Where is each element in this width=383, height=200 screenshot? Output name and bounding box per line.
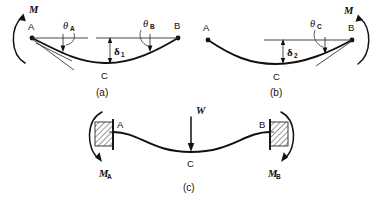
delta-2-subscript: 2 (294, 52, 298, 59)
label-a-point-a: A (28, 21, 35, 32)
caption-c: (c) (183, 182, 195, 193)
beam-curve-a (32, 38, 178, 63)
label-b-point-a: A (203, 22, 210, 33)
moment-m-a-label: M (28, 4, 39, 15)
theta-c-subscript: C (317, 23, 322, 30)
panel-c: W M A M B A B C (c) (89, 105, 293, 193)
load-w-arrowhead (188, 143, 194, 152)
theta-a-leader (66, 33, 75, 45)
moment-ma-subscript: A (107, 173, 112, 180)
moment-ma-arrowhead (95, 152, 102, 162)
label-c-point-b: B (259, 119, 265, 130)
delta-1-symbol: δ (114, 45, 120, 57)
label-a-point-c: C (101, 70, 108, 81)
theta-c-symbol: θ (310, 18, 315, 29)
label-c-point-c: C (187, 158, 194, 169)
moment-mb-subscript: B (276, 173, 281, 180)
theta-b-arrowhead (148, 46, 153, 53)
moment-m-b-label: M (343, 5, 354, 16)
theta-b-symbol: θ (143, 18, 148, 29)
panel-a: θ A θ B δ 1 M A B C (a) (13, 4, 180, 98)
theta-b-subscript: B (150, 23, 155, 30)
tangent-line-b (316, 41, 352, 66)
moment-m-b-arc (358, 18, 369, 64)
caption-b: (b) (270, 87, 282, 98)
caption-a: (a) (96, 87, 108, 98)
beam-curve-b (208, 40, 352, 64)
fixed-support-left-hatch (95, 122, 113, 146)
label-b-point-b: B (348, 22, 354, 33)
theta-a-arrowhead (61, 46, 66, 53)
theta-a-subscript: A (70, 25, 75, 32)
load-w-label: W (196, 105, 206, 116)
moment-mb-arrowhead (281, 152, 288, 162)
delta-1-subscript: 1 (121, 51, 125, 58)
label-c-point-a: A (117, 119, 124, 130)
theta-a-symbol: θ (63, 20, 68, 31)
delta-2-symbol: δ (287, 46, 293, 58)
tangent-line-a-secondary (36, 43, 72, 61)
beam-diagram-svg: θ A θ B δ 1 M A B C (a) (0, 0, 383, 200)
panel-b: δ 2 θ C M A B C (b) (203, 5, 369, 98)
node-b-point-a (206, 38, 211, 43)
label-b-point-c: C (273, 71, 280, 82)
figure-root: θ A θ B δ 1 M A B C (a) (0, 0, 383, 200)
fixed-support-right-hatch (270, 122, 288, 146)
label-a-point-b: B (174, 20, 180, 31)
theta-c-leader (314, 30, 323, 47)
moment-m-a-arc (13, 17, 25, 63)
